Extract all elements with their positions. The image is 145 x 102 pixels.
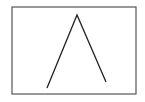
diagram-frame [12,7,136,94]
diagram-canvas [0,0,145,102]
